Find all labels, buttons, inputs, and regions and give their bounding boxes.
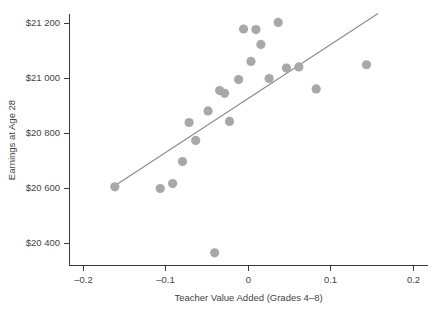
x-tick-label: 0 bbox=[246, 274, 251, 285]
regression-line bbox=[114, 14, 378, 187]
x-tick-label: –0.2 bbox=[74, 274, 93, 285]
x-axis-title: Teacher Value Added (Grades 4–8) bbox=[174, 292, 322, 303]
x-tick-label: –0.1 bbox=[156, 274, 175, 285]
data-point bbox=[225, 117, 234, 126]
y-tick-label: $21 000 bbox=[26, 72, 60, 83]
y-tick-label: $21 200 bbox=[26, 17, 60, 28]
x-tick-label: 0.2 bbox=[407, 274, 420, 285]
x-tick-label: 0.1 bbox=[324, 274, 337, 285]
data-point bbox=[234, 75, 243, 84]
data-point bbox=[246, 57, 255, 66]
data-point bbox=[282, 63, 291, 72]
scatter-chart-figure: $21 200 $21 000 $20 800 $20 600 $20 400 … bbox=[0, 0, 440, 310]
data-point bbox=[239, 24, 248, 33]
x-axis-ticks bbox=[84, 266, 414, 272]
y-axis-ticks bbox=[64, 24, 70, 244]
data-point bbox=[294, 62, 303, 71]
data-point bbox=[210, 248, 219, 257]
data-point bbox=[362, 60, 371, 69]
data-point bbox=[156, 184, 165, 193]
data-point bbox=[110, 182, 119, 191]
data-point bbox=[265, 74, 274, 83]
chart-canvas: $21 200 $21 000 $20 800 $20 600 $20 400 … bbox=[0, 0, 440, 310]
y-tick-label: $20 800 bbox=[26, 127, 60, 138]
data-point bbox=[178, 157, 187, 166]
y-axis-title: Earnings at Age 28 bbox=[6, 100, 17, 180]
axis-frame bbox=[70, 14, 429, 266]
data-point bbox=[203, 106, 212, 115]
data-point bbox=[312, 84, 321, 93]
data-point bbox=[220, 89, 229, 98]
y-tick-label: $20 400 bbox=[26, 237, 60, 248]
data-point bbox=[185, 118, 194, 127]
x-axis-tick-labels: –0.2 –0.1 0 0.1 0.2 bbox=[74, 274, 420, 285]
data-point bbox=[256, 40, 265, 49]
data-point bbox=[168, 179, 177, 188]
data-point bbox=[251, 25, 260, 34]
data-point bbox=[274, 18, 283, 27]
data-point bbox=[191, 136, 200, 145]
y-axis-tick-labels: $21 200 $21 000 $20 800 $20 600 $20 400 bbox=[26, 17, 60, 248]
data-point-group bbox=[110, 18, 371, 258]
y-tick-label: $20 600 bbox=[26, 182, 60, 193]
